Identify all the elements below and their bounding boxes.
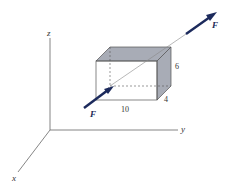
rectangular-box: 6 4 10 <box>96 47 179 114</box>
force-label-head: F <box>211 20 218 30</box>
diagram-canvas: z y x 6 4 10 F F <box>0 0 231 189</box>
x-axis <box>18 130 50 172</box>
x-axis-label: x <box>11 173 16 183</box>
box-front-face <box>96 61 157 100</box>
z-axis-label: z <box>46 28 51 38</box>
depth-label: 4 <box>164 95 168 104</box>
force-arrow-head: F <box>186 12 218 34</box>
force-arrow-tail: F <box>84 86 114 119</box>
force-label-tail: F <box>89 109 96 119</box>
length-label: 10 <box>121 105 129 114</box>
y-axis-label: y <box>180 124 185 134</box>
height-label: 6 <box>175 62 179 71</box>
